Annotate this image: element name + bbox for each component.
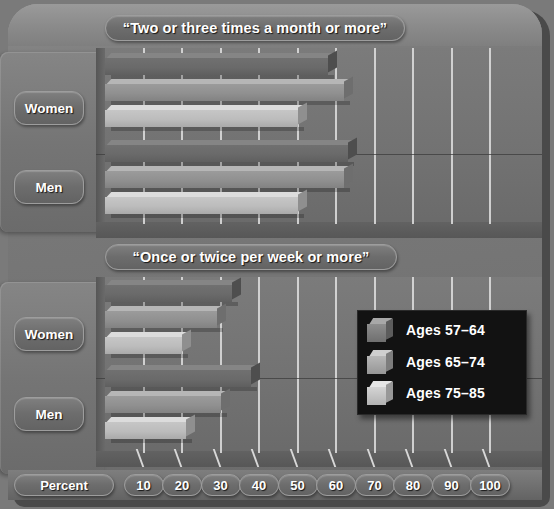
panel-title-top: “Two or three times a month or more” <box>105 15 405 41</box>
legend-item-0: Ages 57–64 <box>367 315 521 345</box>
x-tick-label-20: 20 <box>162 474 202 496</box>
x-tick-label-100: 100 <box>470 474 510 496</box>
bar-women-7585 <box>105 110 307 127</box>
panel-left-wall-top <box>96 48 105 238</box>
legend-swatch-cube-icon-2 <box>367 381 393 405</box>
gridline-90 <box>451 48 453 224</box>
x-tick-label-30: 30 <box>201 474 241 496</box>
bar-men-5764 <box>105 145 357 162</box>
x-tick-label-40: 40 <box>239 474 279 496</box>
panel-floor-bottom <box>96 451 542 467</box>
bar-men-7585 <box>105 422 195 439</box>
category-wing-top <box>0 52 104 232</box>
category-label-men-top: Men <box>14 170 84 204</box>
x-tick-label-60: 60 <box>316 474 356 496</box>
gridline-60 <box>335 277 337 453</box>
category-wing-bottom <box>0 282 104 474</box>
bar-men-7585 <box>105 197 307 214</box>
gridline-100 <box>489 48 491 224</box>
plot-panel-top <box>96 48 542 238</box>
bar-women-7585 <box>105 337 191 354</box>
gridline-80 <box>412 48 414 224</box>
bar-women-6574 <box>105 84 353 101</box>
panel-title-bottom: “Once or twice per week or more” <box>105 244 397 270</box>
legend-swatch-cube-icon-0 <box>367 318 393 342</box>
legend-label-0: Ages 57–64 <box>406 322 485 338</box>
legend-swatch-cube-icon-1 <box>367 350 393 374</box>
bar-men-6574 <box>105 396 230 413</box>
legend: Ages 57–64 Ages 65–74 Ages 75–85 <box>357 310 527 415</box>
x-axis-label: Percent <box>14 474 114 496</box>
category-label-men-bottom: Men <box>14 397 84 431</box>
gridline-50 <box>297 277 299 453</box>
x-tick-label-80: 80 <box>393 474 433 496</box>
x-tick-label-70: 70 <box>355 474 395 496</box>
bar-men-5764 <box>105 370 260 387</box>
bar-women-5764 <box>105 285 241 302</box>
gridline-70 <box>374 48 376 224</box>
panel-left-wall-bottom <box>96 277 105 467</box>
chart-figure: “Two or three times a month or more” “On… <box>0 0 554 509</box>
panel-floor-top <box>96 222 542 238</box>
category-label-women-bottom: Women <box>14 317 84 351</box>
legend-label-1: Ages 65–74 <box>406 354 485 370</box>
category-label-women-top: Women <box>14 91 84 125</box>
x-tick-label-50: 50 <box>278 474 318 496</box>
x-tick-label-90: 90 <box>432 474 472 496</box>
x-tick-label-10: 10 <box>124 474 164 496</box>
legend-item-1: Ages 65–74 <box>367 347 521 377</box>
legend-label-2: Ages 75–85 <box>406 385 485 401</box>
bar-women-5764 <box>105 58 337 75</box>
bar-men-6574 <box>105 171 353 188</box>
legend-item-2: Ages 75–85 <box>367 378 521 408</box>
bar-women-6574 <box>105 311 226 328</box>
x-axis-strip: Percent 102030405060708090100 <box>8 470 542 500</box>
